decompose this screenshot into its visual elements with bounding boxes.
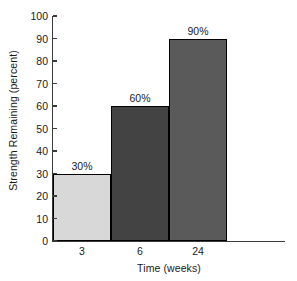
x-axis-tick-label: 24 [192, 246, 204, 257]
bar [53, 174, 111, 242]
x-axis-line [52, 241, 285, 242]
y-axis-tick-label: 10 [20, 213, 48, 224]
y-axis-tick-mark [53, 83, 57, 84]
y-axis-tick-label: 50 [20, 123, 48, 134]
bar-value-label: 90% [187, 26, 208, 37]
y-axis-tick-label: 0 [20, 236, 48, 247]
y-axis-tick-mark [53, 128, 57, 129]
y-axis-tick-mark [53, 15, 57, 16]
y-axis-tick-mark [53, 240, 57, 241]
y-axis-tick-mark [53, 218, 57, 219]
y-axis-tick-mark [53, 105, 57, 106]
bar [169, 39, 227, 242]
bar [111, 106, 169, 241]
bar-value-label: 60% [129, 93, 150, 104]
y-axis-tick-label: 80 [20, 56, 48, 67]
y-axis-tick-labels: 0102030405060708090100 [20, 0, 48, 281]
y-axis-tick-mark [53, 60, 57, 61]
y-axis-tick-mark [53, 195, 57, 196]
x-axis-tick-label: 6 [137, 246, 143, 257]
y-axis-tick-label: 90 [20, 33, 48, 44]
y-axis-tick-mark [53, 150, 57, 151]
plot-area [53, 16, 285, 241]
y-axis-tick-label: 30 [20, 168, 48, 179]
y-axis-tick-label: 60 [20, 101, 48, 112]
y-axis-tick-mark [53, 38, 57, 39]
y-axis-tick-label: 70 [20, 78, 48, 89]
x-axis-title: Time (weeks) [53, 262, 285, 274]
bar-chart: Strength Remaining (percent) 01020304050… [0, 0, 297, 281]
y-axis-tick-label: 20 [20, 191, 48, 202]
x-axis-tick-label: 3 [79, 246, 85, 257]
y-axis-tick-label: 40 [20, 146, 48, 157]
y-axis-tick-label: 100 [20, 11, 48, 22]
y-axis-tick-mark [53, 173, 57, 174]
bar-value-label: 30% [71, 161, 92, 172]
